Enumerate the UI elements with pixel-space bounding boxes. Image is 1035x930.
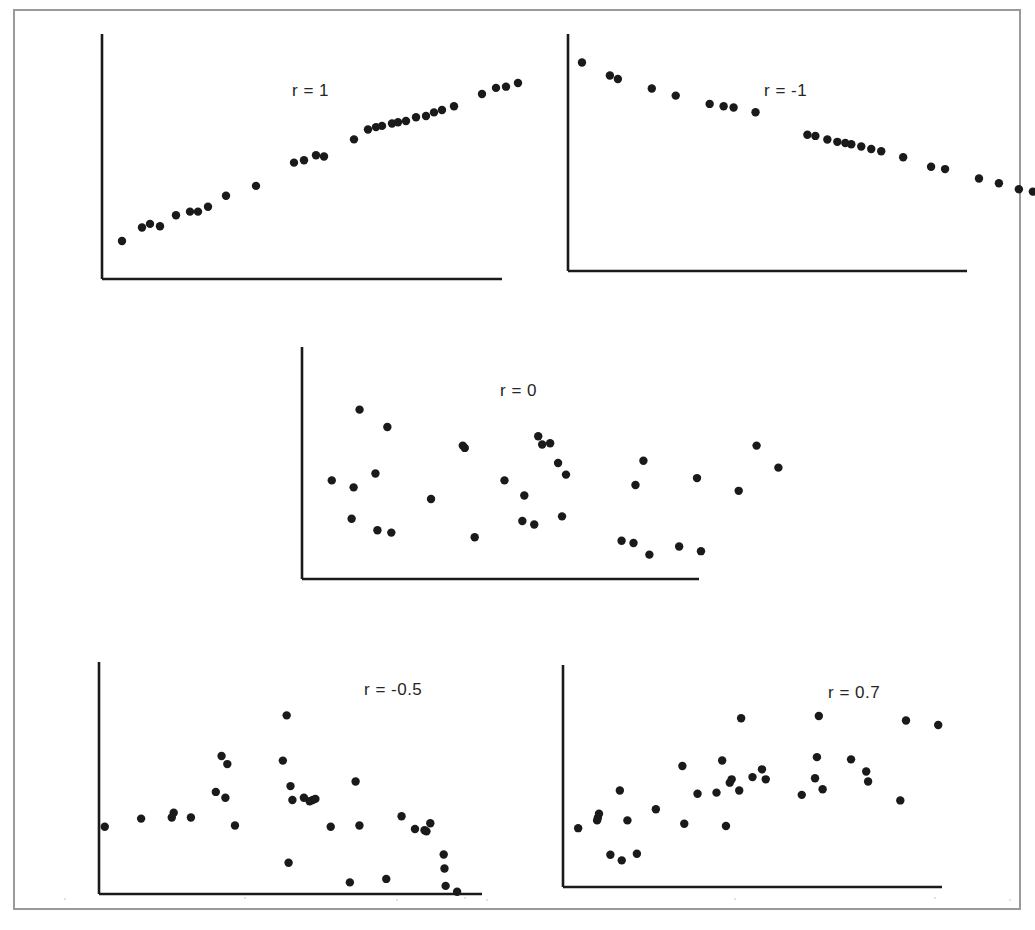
data-point [798, 791, 806, 799]
data-point [729, 103, 737, 111]
data-point [758, 765, 766, 773]
scatter-panel-r-07: r = 0.7 [15, 601, 1019, 908]
data-point [748, 773, 756, 781]
data-point [631, 481, 639, 489]
data-point [995, 179, 1003, 187]
data-point [639, 456, 647, 464]
data-point [373, 526, 381, 534]
data-point [534, 432, 542, 440]
data-point [823, 135, 831, 143]
data-point [387, 528, 395, 536]
data-point [459, 441, 467, 449]
data-point [616, 786, 624, 794]
figure-frame: r = 1 r = -1 r = 0 r = -0.5 r = 0.7 [13, 9, 1021, 910]
data-point [719, 102, 727, 110]
data-point [558, 512, 566, 520]
data-point [574, 824, 582, 832]
data-point [941, 165, 949, 173]
data-point [803, 131, 811, 139]
panel-label-r-07: r = 0.7 [828, 683, 880, 703]
data-point [538, 440, 546, 448]
data-point [818, 785, 826, 793]
data-point [470, 533, 478, 541]
data-point [328, 476, 336, 484]
data-point [652, 805, 660, 813]
data-point [927, 163, 935, 171]
data-point [355, 405, 363, 413]
data-point [618, 856, 626, 864]
data-point [614, 75, 622, 83]
data-point [847, 755, 855, 763]
data-point [562, 470, 570, 478]
data-point [680, 820, 688, 828]
data-point [578, 58, 586, 66]
data-point [864, 777, 872, 785]
data-point [693, 474, 701, 482]
data-point [633, 850, 641, 858]
data-point [623, 816, 631, 824]
data-point [500, 476, 508, 484]
data-point [896, 796, 904, 804]
scatter-plot-svg-r-0 [15, 311, 1019, 601]
data-point [752, 441, 760, 449]
scan-noise-artifact [35, 892, 1025, 906]
data-point [546, 439, 554, 447]
data-point [899, 153, 907, 161]
data-point [693, 790, 701, 798]
data-point [727, 775, 735, 783]
data-point [675, 542, 683, 550]
data-point [594, 814, 602, 822]
data-point [735, 786, 743, 794]
data-point [648, 84, 656, 92]
scatter-plot-svg-r-07 [15, 601, 1019, 908]
data-point [672, 91, 680, 99]
data-point [975, 174, 983, 182]
data-point [518, 517, 526, 525]
data-point [712, 788, 720, 796]
data-point [877, 147, 885, 155]
data-point [774, 463, 782, 471]
data-point [857, 142, 865, 150]
panel-label-r-neg1: r = -1 [764, 81, 807, 101]
data-point [678, 762, 686, 770]
data-point [737, 714, 745, 722]
data-point [1015, 185, 1023, 193]
data-point [617, 537, 625, 545]
data-point [349, 483, 357, 491]
scatter-panel-r-neg1: r = -1 [15, 11, 1019, 311]
data-point [606, 71, 614, 79]
data-point [606, 851, 614, 859]
data-point [811, 774, 819, 782]
data-point [629, 539, 637, 547]
data-point [520, 491, 528, 499]
data-point [902, 716, 910, 724]
data-point [735, 487, 743, 495]
data-point [762, 775, 770, 783]
data-point [530, 520, 538, 528]
data-point [427, 495, 435, 503]
data-point [815, 712, 823, 720]
scatter-panel-r-0: r = 0 [15, 311, 1019, 601]
data-point [347, 514, 355, 522]
data-point [847, 140, 855, 148]
data-point [934, 721, 942, 729]
data-point [371, 469, 379, 477]
panel-label-r-0: r = 0 [500, 381, 537, 401]
data-point [1029, 187, 1035, 195]
data-point [697, 547, 705, 555]
scatter-plot-svg-r-neg1 [15, 11, 1019, 311]
data-point [645, 550, 653, 558]
data-point [867, 145, 875, 153]
data-point [813, 753, 821, 761]
data-point [383, 423, 391, 431]
data-point [833, 138, 841, 146]
data-point [705, 100, 713, 108]
data-point [862, 767, 870, 775]
data-point [751, 108, 759, 116]
data-point [554, 459, 562, 467]
data-point [722, 822, 730, 830]
data-point [811, 132, 819, 140]
data-point [718, 756, 726, 764]
